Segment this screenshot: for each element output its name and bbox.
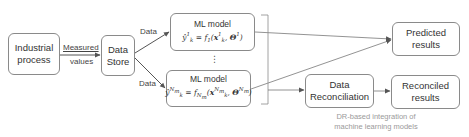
ml-model-1-formula: ŷ1k = f1(x1k, Θ1) [182, 29, 242, 45]
ml-model-n-node: ML model ŷNmk = fNm(xNmk, ΘNm) [166, 70, 251, 107]
predicted-results-node: Predicted results [392, 22, 460, 56]
caption-line-1: DR-based integration of [326, 112, 426, 122]
diagram-caption: DR-based integration of machine learning… [326, 112, 426, 132]
industrial-process-node: Industrial process [8, 33, 60, 75]
ml-model-1-title: ML model [194, 19, 231, 29]
data-store-node: Data Store [101, 35, 135, 76]
data-store-label-1: Data [108, 44, 128, 56]
data-reconciliation-label-1: Data [329, 79, 349, 91]
predicted-results-label-1: Predicted [406, 27, 446, 39]
data-store-label-2: Store [107, 56, 130, 68]
edge-label-measured: Measured [63, 43, 99, 52]
models-group-bracket [261, 15, 268, 104]
industrial-process-label-1: Industrial [15, 42, 54, 54]
edge-label-data-top: Data [140, 27, 157, 36]
caption-line-2: machine learning models [326, 122, 426, 132]
data-reconciliation-label-2: Reconciliation [310, 91, 369, 103]
arrow-model-1-to-predicted [255, 32, 391, 39]
data-reconciliation-node: Data Reconciliation [305, 74, 374, 108]
predicted-results-label-2: results [412, 39, 440, 51]
ml-model-1-node: ML model ŷ1k = f1(x1k, Θ1) [170, 13, 255, 51]
edge-label-data-bottom: Data [139, 79, 156, 88]
industrial-process-label-2: process [17, 54, 50, 66]
edge-label-values: values [70, 57, 93, 66]
reconciled-results-node: Reconciled results [391, 75, 460, 109]
ellipsis-icon: ⋮ [210, 55, 219, 64]
reconciled-results-label-2: results [412, 92, 440, 104]
diagram-canvas: Industrial process Measured values Data … [0, 0, 469, 137]
reconciled-results-label-1: Reconciled [402, 80, 449, 92]
ml-model-n-title: ML model [190, 74, 227, 84]
ml-model-n-formula: ŷNmk = fNm(xNmk, ΘNm) [165, 84, 252, 102]
